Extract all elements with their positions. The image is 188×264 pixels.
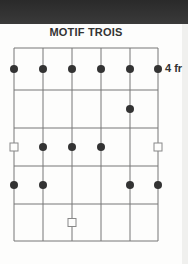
finger-dot-icon — [126, 181, 134, 189]
optional-note-square-icon — [68, 219, 76, 227]
optional-note-square-icon — [10, 143, 18, 151]
finger-dot-icon — [97, 143, 105, 151]
optional-note-square-icon — [154, 143, 162, 151]
finger-dot-icon — [39, 181, 47, 189]
finger-dot-icon — [126, 105, 134, 113]
fretboard-diagram — [0, 0, 188, 264]
finger-dot-icon — [154, 181, 162, 189]
finger-dot-icon — [10, 65, 18, 73]
finger-dot-icon — [39, 143, 47, 151]
finger-dot-icon — [10, 181, 18, 189]
finger-dot-icon — [154, 65, 162, 73]
finger-dot-icon — [39, 65, 47, 73]
finger-dot-icon — [68, 65, 76, 73]
finger-dot-icon — [68, 143, 76, 151]
fret-position-label: 4 fr — [165, 62, 182, 74]
finger-dot-icon — [97, 65, 105, 73]
finger-dot-icon — [126, 65, 134, 73]
